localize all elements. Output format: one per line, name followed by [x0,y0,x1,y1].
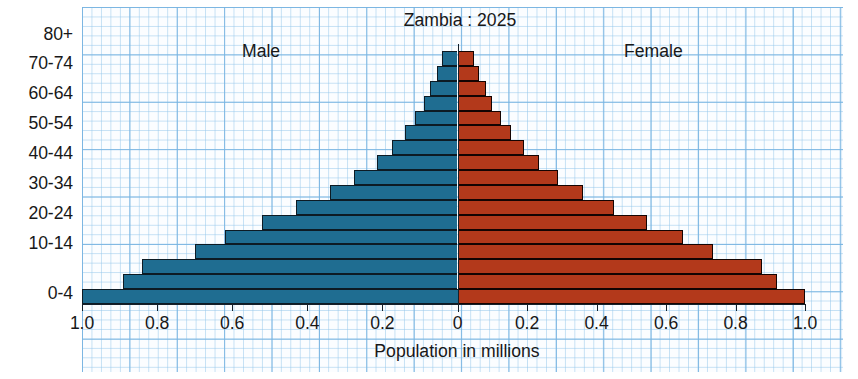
y-tick-label-80plus: 80+ [43,24,73,45]
pyramid-row [82,66,805,81]
bar-female-15-19 [458,244,713,259]
bar-female-5-9 [458,274,778,289]
y-tick-label-40-44: 40-44 [29,143,74,164]
pyramid-row [82,96,805,111]
y-tick-label-60-64: 60-64 [29,83,74,104]
bar-male-10-14 [142,259,457,274]
pyramid-row [82,259,805,274]
pyramid-row [82,274,805,289]
bar-female-60-64 [458,111,501,126]
x-axis-line [82,304,806,305]
bar-male-45-49 [377,155,458,170]
x-tick-0.2-right [527,304,528,311]
plot-area [82,51,805,304]
bar-female-80+ [458,51,475,66]
y-tick-label-50-54: 50-54 [29,113,74,134]
pyramid-row [82,155,805,170]
bar-female-30-34 [458,200,614,215]
pyramid-row [82,215,805,230]
x-tick-label-10: 1.0 [793,313,817,334]
x-tick-0.4-left [307,304,308,311]
x-axis-title: Population in millions [374,341,539,362]
bar-male-60-64 [415,111,457,126]
y-tick-label-10-14: 10-14 [29,233,74,254]
x-tick-label-1: 0.8 [145,313,169,334]
bar-female-40-44 [458,170,559,185]
bar-male-0-4 [82,289,458,304]
bar-male-65-69 [424,96,458,111]
bar-female-25-29 [458,215,647,230]
population-pyramid-figure: 80+ 70-74 60-64 50-54 40-44 30-34 20-24 … [0,0,858,379]
y-axis-labels: 80+ 70-74 60-64 50-54 40-44 30-34 20-24 … [0,0,78,379]
x-tick-label-0: 1.0 [70,313,94,334]
bar-female-35-39 [458,185,583,200]
x-tick-label-4: 0.2 [370,313,394,334]
pyramid-row [82,230,805,245]
bar-male-20-24 [225,230,458,245]
x-tick-label-7: 0.4 [584,313,608,334]
pyramid-row [82,200,805,215]
bar-male-55-59 [405,125,458,140]
x-tick-0 [458,304,459,311]
center-axis-line [458,44,459,312]
pyramid-row [82,111,805,126]
x-tick-label-3: 0.4 [295,313,319,334]
pyramid-row [82,289,805,304]
y-tick-label-20-24: 20-24 [29,203,74,224]
bar-male-35-39 [330,185,458,200]
x-tick-1.0-left [82,304,83,311]
bar-female-45-49 [458,155,540,170]
x-tick-0.6-right [666,304,667,311]
series-label-male: Male [242,41,280,62]
pyramid-row [82,244,805,259]
y-tick-label-30-34: 30-34 [29,173,74,194]
pyramid-row [82,140,805,155]
x-tick-0.4-right [597,304,598,311]
bar-male-70-74 [430,81,457,96]
x-tick-label-2: 0.6 [220,313,244,334]
x-tick-0.2-left [382,304,383,311]
bar-female-50-54 [458,140,524,155]
bar-male-15-19 [195,244,458,259]
bar-male-80+ [442,51,457,66]
bar-male-30-34 [296,200,457,215]
bar-female-0-4 [458,289,806,304]
pyramid-row [82,185,805,200]
x-tick-label-6: 0.2 [515,313,539,334]
y-tick-label-70-74: 70-74 [29,53,74,74]
bar-female-55-59 [458,125,512,140]
bar-female-10-14 [458,259,762,274]
bar-male-40-44 [354,170,457,185]
bar-male-75-79 [437,66,457,81]
bar-male-25-29 [262,215,457,230]
pyramid-row [82,125,805,140]
y-tick-label-0-4: 0-4 [48,283,73,304]
bar-female-75-79 [458,66,480,81]
bar-female-20-24 [458,230,684,245]
x-tick-1.0-right [805,304,806,311]
x-tick-label-9: 0.8 [723,313,747,334]
x-tick-label-5: 0 [453,313,463,334]
x-tick-0.6-left [232,304,233,311]
bar-female-70-74 [458,81,486,96]
bar-female-65-69 [458,96,493,111]
x-tick-0.8-left [157,304,158,311]
pyramid-row [82,81,805,96]
series-label-female: Female [624,41,683,62]
pyramid-row [82,51,805,66]
bar-male-50-54 [392,140,458,155]
pyramid-row [82,170,805,185]
x-tick-label-8: 0.6 [654,313,678,334]
bar-male-5-9 [123,274,457,289]
x-tick-0.8-right [736,304,737,311]
chart-title: Zambia : 2025 [404,10,516,31]
